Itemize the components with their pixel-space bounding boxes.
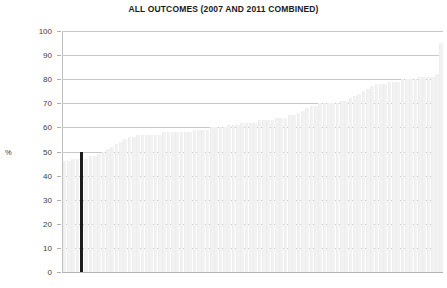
bar [245, 123, 249, 272]
bar [162, 132, 166, 272]
bar [258, 120, 262, 272]
bar [249, 123, 253, 272]
bar [314, 106, 318, 272]
bar [435, 74, 439, 272]
bar [292, 115, 296, 272]
bar [349, 98, 353, 272]
bar [97, 154, 101, 272]
bar-series [62, 31, 443, 272]
y-tick-mark [57, 272, 61, 273]
bar [401, 79, 405, 272]
bar [236, 125, 240, 272]
y-tick-label: 30 [43, 195, 52, 204]
bar [171, 132, 175, 272]
bar [284, 118, 288, 272]
y-tick-label: 90 [43, 51, 52, 60]
bar [262, 120, 266, 272]
bar [375, 84, 379, 272]
bar [392, 82, 396, 272]
bar [336, 103, 340, 272]
bar [115, 144, 119, 272]
bar [253, 123, 257, 272]
chart-container: ALL OUTCOMES (2007 AND 2011 COMBINED) % … [0, 0, 447, 288]
bar [106, 149, 110, 272]
bar [370, 86, 374, 272]
bar [93, 156, 97, 272]
bar [232, 125, 236, 272]
bar [223, 127, 227, 272]
bar [210, 127, 214, 272]
bar [405, 79, 409, 272]
bar [76, 159, 80, 272]
bar [141, 135, 145, 272]
bar [180, 132, 184, 272]
bar [427, 77, 431, 272]
bar [327, 103, 331, 272]
bar [136, 135, 140, 272]
bar [89, 156, 93, 272]
bar [422, 77, 426, 272]
bar [63, 161, 67, 272]
bar [414, 79, 418, 272]
bar [297, 113, 301, 272]
bar [301, 111, 305, 272]
bar [323, 103, 327, 272]
bar [123, 139, 127, 272]
bar [379, 84, 383, 272]
y-tick-mark [57, 176, 61, 177]
bar [119, 142, 123, 272]
y-tick-mark [57, 248, 61, 249]
plot-area [62, 31, 443, 272]
bar [145, 135, 149, 272]
bar [331, 103, 335, 272]
y-axis: 0102030405060708090100 [0, 0, 62, 288]
bar [201, 130, 205, 272]
bar [305, 108, 309, 272]
bar [184, 132, 188, 272]
y-tick-label: 100 [39, 27, 52, 36]
bar [431, 77, 435, 272]
bar [388, 82, 392, 272]
bar [366, 89, 370, 272]
y-tick-mark [57, 103, 61, 104]
bar [266, 120, 270, 272]
y-tick-mark [57, 79, 61, 80]
bar [71, 159, 75, 272]
bar [288, 115, 292, 272]
bar [275, 118, 279, 272]
bar [197, 130, 201, 272]
bar [188, 132, 192, 272]
bar [353, 96, 357, 272]
y-tick-label: 60 [43, 123, 52, 132]
bar [362, 91, 366, 272]
y-tick-label: 40 [43, 171, 52, 180]
bar [149, 135, 153, 272]
y-tick-mark [57, 127, 61, 128]
bar [158, 135, 162, 272]
bar-highlighted [80, 152, 82, 273]
bar [344, 101, 348, 272]
y-tick-label: 80 [43, 75, 52, 84]
bar [439, 43, 443, 272]
bar [193, 130, 197, 272]
y-tick-label: 50 [43, 147, 52, 156]
bar [219, 127, 223, 272]
y-tick-label: 70 [43, 99, 52, 108]
bar [214, 127, 218, 272]
bar [84, 159, 88, 272]
y-tick-mark [57, 200, 61, 201]
bar [102, 152, 106, 273]
bar [357, 94, 361, 272]
y-tick-label: 10 [43, 243, 52, 252]
bar [110, 147, 114, 272]
y-tick-label: 20 [43, 219, 52, 228]
bar [418, 77, 422, 272]
chart-title: ALL OUTCOMES (2007 AND 2011 COMBINED) [0, 4, 447, 14]
bar [206, 130, 210, 272]
y-tick-label: 0 [48, 268, 52, 277]
bar [409, 79, 413, 272]
bar [271, 120, 275, 272]
bar [128, 137, 132, 272]
bar [279, 118, 283, 272]
bar [132, 137, 136, 272]
